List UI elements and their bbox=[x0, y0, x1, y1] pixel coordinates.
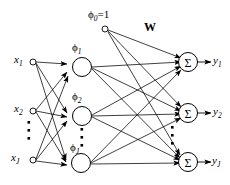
sigma-symbol-yJ3: Σ bbox=[185, 156, 192, 170]
hidden-label-phi1: ϕ1 bbox=[72, 42, 82, 56]
input-label-xJ1: xJ bbox=[11, 152, 19, 166]
output-label-y1: y1 bbox=[213, 55, 222, 69]
input-label-x1: x1 bbox=[14, 54, 23, 68]
input-sub-x1: 1 bbox=[19, 59, 23, 68]
output-ellipsis-dot bbox=[171, 142, 174, 145]
output-sub-y2: 2 bbox=[218, 111, 222, 120]
input-to-hidden-edges bbox=[36, 62, 68, 165]
hidden-label-phiJ2: ϕJ bbox=[70, 142, 79, 156]
output-label-yJ3: yJ bbox=[212, 155, 220, 169]
hidden-to-output-edges bbox=[91, 62, 181, 164]
hidden-sub-phiJ2: J bbox=[76, 147, 79, 156]
sigma-symbol-y1: Σ bbox=[185, 56, 192, 70]
output-ellipsis-dot bbox=[171, 134, 174, 137]
neural-network-diagram: Σ Σ Σ ϕ0=1 W x1 x2 xJ ϕ1 ϕ2 ϕJ y1 y2 yJ bbox=[0, 0, 230, 185]
hidden-node-phi2 bbox=[73, 107, 92, 126]
hidden-ellipsis-dot bbox=[81, 144, 84, 147]
hidden-ellipsis-dot bbox=[81, 128, 84, 131]
input-ellipsis-dot bbox=[28, 129, 31, 132]
input-node-x1 bbox=[30, 59, 36, 65]
output-label-y2: y2 bbox=[213, 106, 222, 120]
weight-matrix-label: W bbox=[144, 21, 156, 33]
hidden-label-phi2: ϕ2 bbox=[72, 91, 82, 105]
output-to-label-edges bbox=[197, 62, 211, 162]
hidden-sub-phi2: 2 bbox=[78, 96, 82, 105]
input-node-x2 bbox=[30, 108, 36, 114]
input-ellipsis-dot bbox=[28, 137, 31, 140]
input-node-xJ1 bbox=[30, 157, 36, 163]
hidden-ellipsis-dot bbox=[81, 136, 84, 139]
hidden-sub-phi1: 1 bbox=[78, 47, 82, 56]
bias-node bbox=[102, 26, 108, 32]
bias-label: ϕ0=1 bbox=[88, 9, 109, 23]
bias-equals-one: =1 bbox=[98, 8, 110, 20]
output-sub-y1: 1 bbox=[218, 60, 222, 69]
network-graph-svg: Σ Σ Σ bbox=[0, 0, 230, 185]
sigma-symbol-y2: Σ bbox=[185, 107, 192, 121]
input-nodes bbox=[30, 59, 36, 163]
input-ellipsis-dot bbox=[28, 121, 31, 124]
output-ellipsis-dot bbox=[171, 126, 174, 129]
input-sub-x2: 2 bbox=[19, 108, 23, 117]
output-sub-yJ3: J bbox=[217, 160, 220, 169]
input-sub-xJ1: J bbox=[16, 157, 19, 166]
hidden-node-phiJ2 bbox=[72, 154, 91, 173]
hidden-node-phi1 bbox=[73, 58, 92, 77]
input-label-x2: x2 bbox=[14, 103, 23, 117]
